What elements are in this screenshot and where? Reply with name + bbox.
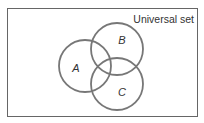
set-a-label: A: [71, 62, 79, 74]
set-b-circle: [91, 23, 143, 75]
universal-set-label: Universal set: [133, 13, 194, 25]
set-b-label: B: [118, 34, 125, 46]
set-c-circle: [91, 58, 143, 110]
set-c-label: C: [118, 86, 126, 98]
venn-diagram: Universal set A B C: [0, 0, 204, 123]
set-a-circle: [59, 40, 111, 92]
